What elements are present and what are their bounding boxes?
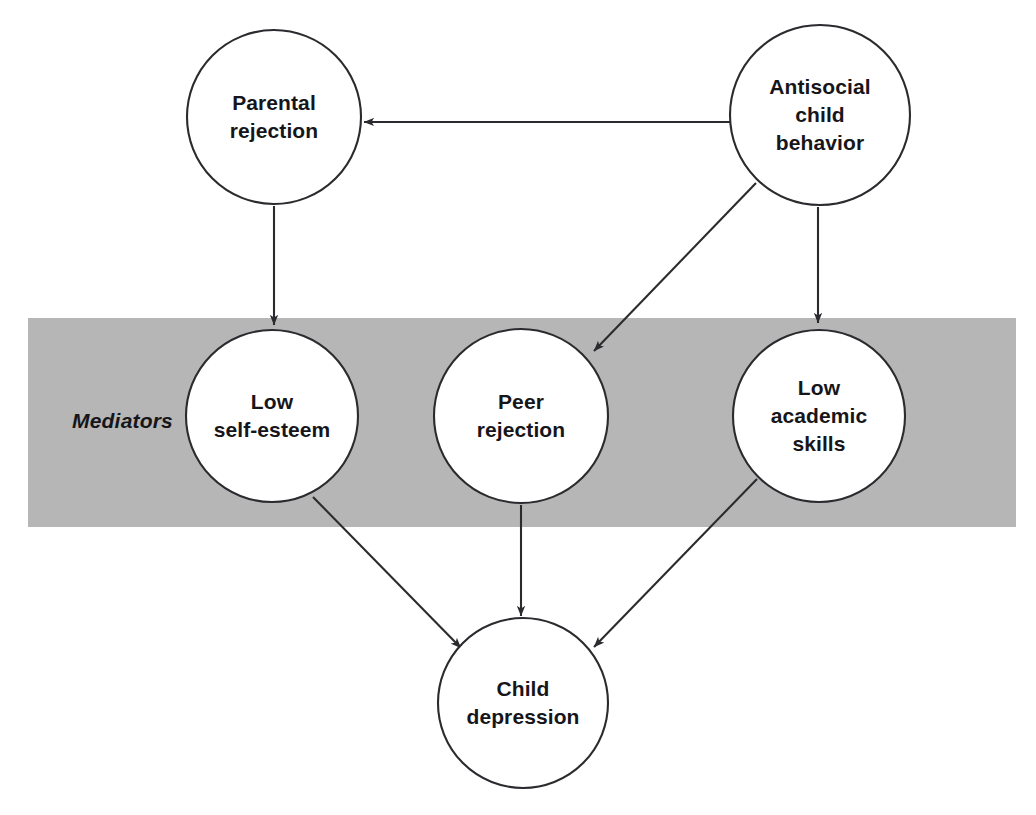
- node-layer: [186, 25, 910, 788]
- diagram-canvas: [0, 0, 1036, 815]
- node-low-self-esteem: [186, 330, 358, 502]
- node-peer-rejection: [434, 329, 608, 503]
- node-antisocial-child-behavior: [730, 25, 910, 205]
- node-child-depression: [438, 618, 608, 788]
- mediators-band-label: Mediators: [72, 409, 173, 433]
- node-parental-rejection: [187, 30, 361, 204]
- node-low-academic-skills: [733, 330, 905, 502]
- mediation-model-diagram: Parental rejectionAntisocial child behav…: [0, 0, 1036, 815]
